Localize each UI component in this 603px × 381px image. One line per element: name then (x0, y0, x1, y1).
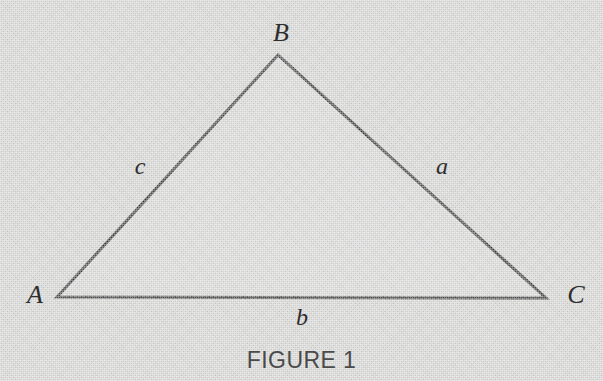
side-label-b: b (296, 305, 308, 329)
figure-caption: FIGURE 1 (0, 347, 603, 374)
side-label-a: a (436, 154, 448, 178)
triangle-shape (57, 55, 546, 298)
vertex-label-c: C (567, 282, 584, 308)
side-label-c: c (135, 154, 146, 178)
figure-canvas: A B C a b c FIGURE 1 (0, 0, 603, 381)
vertex-label-a: A (27, 282, 43, 308)
vertex-label-b: B (273, 20, 289, 46)
